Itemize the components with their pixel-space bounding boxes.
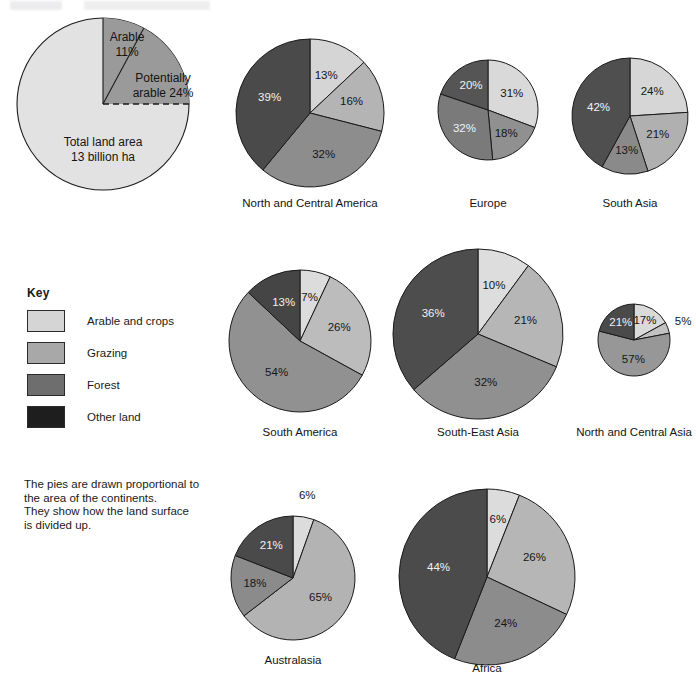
key-item: Other land: [22, 405, 232, 429]
key-item: Arable and crops: [22, 309, 232, 333]
key-swatch-forest: [27, 374, 65, 396]
total-land-area-pie: Arable11%Potentiallyarable 24%Total land…: [17, 18, 194, 190]
slice-label: 18%: [243, 577, 266, 589]
key-swatch-other-land: [27, 406, 65, 428]
slice-label: 21%: [260, 539, 283, 551]
arable-label-line2: 11%: [115, 45, 138, 59]
slice-label: 17%: [633, 314, 656, 326]
pie-europe: 31%18%32%20%Europe: [438, 60, 538, 209]
slice-label: 16%: [340, 95, 363, 107]
figure-note: The pies are drawn proportional to the a…: [24, 478, 239, 532]
key-swatch-grazing: [27, 342, 65, 364]
slice-label: 26%: [328, 321, 351, 333]
potentially-arable-label-line1: Potentially: [135, 71, 190, 85]
slice-label: 24%: [641, 85, 664, 97]
key-label: Other land: [87, 411, 141, 423]
pie-caption: Africa: [472, 662, 502, 674]
pie-north-and-central-america: 13%16%32%39%North and Central America: [236, 39, 384, 209]
key-item: Forest: [22, 373, 232, 397]
slice-label: 24%: [494, 617, 517, 629]
slice-label: 65%: [309, 591, 332, 603]
slice-label: 44%: [427, 561, 450, 573]
key-swatch-arable-and-crops: [27, 310, 65, 332]
slice-label: 21%: [609, 316, 632, 328]
slice-label: 6%: [299, 489, 316, 501]
pie-caption: South Asia: [603, 197, 659, 209]
pie-caption: South-East Asia: [437, 426, 519, 438]
slice-label: 32%: [312, 148, 335, 160]
slice-label: 32%: [453, 122, 476, 134]
slice-label: 21%: [514, 314, 537, 326]
note-line-3: They show how the land surface: [24, 505, 239, 519]
key-label: Grazing: [87, 347, 127, 359]
key-title: Key: [27, 286, 232, 300]
slice-label: 10%: [482, 279, 505, 291]
key-label: Arable and crops: [87, 315, 174, 327]
total-land-area-line1: Total land area: [64, 135, 143, 149]
pie-south-asia: 24%21%13%42%South Asia: [572, 58, 688, 209]
slice-label: 32%: [474, 376, 497, 388]
slice-label: 6%: [490, 513, 507, 525]
continent-pies: 13%16%32%39%North and Central America31%…: [229, 39, 692, 674]
slice-label: 57%: [622, 353, 645, 365]
slice-label: 21%: [646, 128, 669, 140]
key-item: Grazing: [22, 341, 232, 365]
pie-caption: North and Central Asia: [576, 426, 692, 438]
key-label: Forest: [87, 379, 120, 391]
slice-label: 18%: [495, 127, 518, 139]
total-land-area-line2: 13 billion ha: [71, 150, 135, 164]
pie-caption: Europe: [469, 197, 506, 209]
pie-south-america: 7%26%54%13%South America: [229, 270, 371, 438]
pie-caption: South America: [263, 426, 338, 438]
slice-label: 54%: [265, 366, 288, 378]
slice-label: 39%: [258, 91, 281, 103]
note-line-1: The pies are drawn proportional to: [24, 478, 239, 492]
slice-label: 13%: [315, 69, 338, 81]
pie-caption: Australasia: [265, 654, 322, 666]
slice-label: 5%: [675, 315, 692, 327]
pie-caption: North and Central America: [242, 197, 378, 209]
slice-label: 26%: [523, 551, 546, 563]
pie-south-east-asia: 10%21%32%36%South-East Asia: [393, 249, 563, 438]
note-line-4: is divided up.: [24, 519, 239, 533]
pie-north-and-central-asia: 17%5%57%21%North and Central Asia: [576, 304, 692, 438]
slice-label: 20%: [460, 79, 483, 91]
potentially-arable-label-line2: arable 24%: [133, 86, 194, 100]
note-line-2: the area of the continents.: [24, 492, 239, 506]
slice-label: 7%: [301, 291, 318, 303]
arable-label-line1: Arable: [110, 30, 145, 44]
pie-africa: 6%26%24%44%Africa: [399, 489, 575, 674]
key-legend: Key Arable and cropsGrazingForestOther l…: [22, 286, 232, 437]
pie-australasia: 6%65%18%21%Australasia: [231, 489, 355, 666]
slice-label: 31%: [500, 87, 523, 99]
slice-label: 36%: [422, 307, 445, 319]
slice-label: 13%: [272, 296, 295, 308]
slice-label: 13%: [615, 144, 638, 156]
slice-label: 42%: [587, 101, 610, 113]
